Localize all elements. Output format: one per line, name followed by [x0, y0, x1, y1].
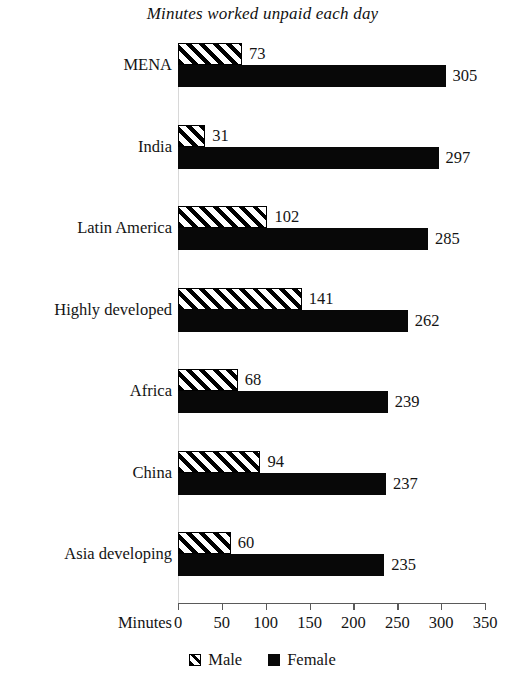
bar-male[interactable]	[178, 451, 260, 473]
bar-value-female: 239	[395, 392, 420, 412]
x-axis-tick-label: 150	[297, 613, 322, 633]
bar-female[interactable]	[178, 391, 388, 413]
bar-female[interactable]	[178, 554, 384, 576]
x-axis-tick	[485, 603, 486, 610]
bar-value-female: 262	[415, 311, 440, 331]
category-label: Asia developing	[64, 544, 172, 564]
unpaid-work-bar-chart: Minutes worked unpaid each day MENA73305…	[0, 0, 525, 692]
bar-male[interactable]	[178, 125, 205, 147]
x-axis-line	[178, 603, 485, 604]
legend-label-female: Female	[287, 650, 336, 670]
hatched-square-icon	[189, 654, 201, 666]
category-group: Highly developed141262	[0, 288, 525, 332]
x-axis-tick	[266, 603, 267, 610]
category-label: MENA	[123, 55, 172, 75]
category-group: Africa68239	[0, 369, 525, 413]
x-axis-tick-label: 350	[473, 613, 498, 633]
category-label: Latin America	[77, 218, 172, 238]
legend-item-female[interactable]: Female	[268, 650, 336, 670]
legend-label-male: Male	[208, 650, 242, 670]
bar-female[interactable]	[178, 228, 428, 250]
bar-value-male: 102	[274, 207, 299, 227]
x-axis-tick-label: 200	[341, 613, 366, 633]
bar-value-female: 235	[391, 555, 416, 575]
x-axis-tick	[178, 603, 179, 610]
plot-area: MENA73305India31297Latin America102285Hi…	[0, 40, 525, 605]
chart-legend: Male Female	[0, 650, 525, 670]
legend-item-male[interactable]: Male	[189, 650, 242, 670]
category-group: Asia developing60235	[0, 532, 525, 576]
x-axis-tick	[222, 603, 223, 610]
category-group: China94237	[0, 451, 525, 495]
category-group: Latin America102285	[0, 206, 525, 250]
category-group: MENA73305	[0, 43, 525, 87]
bar-value-male: 94	[267, 452, 284, 472]
bar-value-female: 305	[453, 66, 478, 86]
x-axis: 050100150200250300350	[0, 603, 525, 633]
x-axis-tick	[353, 603, 354, 610]
bar-male[interactable]	[178, 206, 267, 228]
bar-value-male: 73	[249, 44, 266, 64]
x-axis-tick-label: 250	[385, 613, 410, 633]
bar-value-male: 31	[212, 126, 229, 146]
category-label: Highly developed	[54, 300, 172, 320]
category-group: India31297	[0, 125, 525, 169]
bar-female[interactable]	[178, 147, 439, 169]
bar-value-female: 285	[435, 229, 460, 249]
x-axis-title: Minutes	[118, 613, 172, 633]
bar-female[interactable]	[178, 65, 446, 87]
bar-value-female: 237	[393, 474, 418, 494]
x-axis-tick	[397, 603, 398, 610]
bar-male[interactable]	[178, 369, 238, 391]
x-axis-tick-label: 100	[253, 613, 278, 633]
category-label: China	[133, 463, 172, 483]
bar-female[interactable]	[178, 473, 386, 495]
bar-male[interactable]	[178, 43, 242, 65]
bar-female[interactable]	[178, 310, 408, 332]
x-axis-tick-label: 300	[429, 613, 454, 633]
bar-male[interactable]	[178, 532, 231, 554]
category-label: Africa	[130, 381, 172, 401]
chart-title: Minutes worked unpaid each day	[0, 4, 525, 24]
x-axis-tick	[441, 603, 442, 610]
category-label: India	[138, 137, 172, 157]
bar-value-female: 297	[446, 148, 471, 168]
filled-square-icon	[268, 654, 280, 666]
bar-value-male: 141	[309, 289, 334, 309]
bar-male[interactable]	[178, 288, 302, 310]
bar-value-male: 68	[245, 370, 262, 390]
x-axis-tick-label: 50	[214, 613, 231, 633]
bar-value-male: 60	[238, 533, 255, 553]
x-axis-tick	[310, 603, 311, 610]
x-axis-tick-label: 0	[174, 613, 182, 633]
